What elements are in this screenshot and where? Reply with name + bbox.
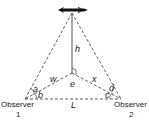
label-x: x [91,74,97,84]
observer-2-number: 2 [129,110,134,119]
observer-1-number: 1 [16,110,21,119]
label-b: b [38,90,43,100]
observer-2-label: Observer [114,100,147,109]
label-h: h [75,44,80,54]
label-e: e [70,79,75,89]
label-w: w [50,74,57,84]
angle-arc-b [35,94,37,99]
label-d: d [109,83,115,93]
angle-arc-c [110,94,111,99]
triangulation-diagram: h w e x a b c d L Observer 1 Observer 2 [0,0,149,121]
rocket-icon [58,7,88,13]
observer-1-label: Observer [1,100,34,109]
label-L: L [71,100,76,110]
